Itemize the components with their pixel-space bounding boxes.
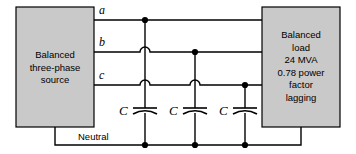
capacitor-2-label: C — [169, 103, 178, 119]
junction-dot-neutral-3 — [242, 142, 248, 148]
phase-b-line — [94, 47, 262, 52]
phase-c-label: c — [99, 68, 104, 83]
phase-a-label: a — [99, 3, 105, 18]
junction-dot-neutral-2 — [192, 142, 198, 148]
load-box-label: Balanced load 24 MVA 0.78 power factor l… — [262, 29, 340, 105]
junction-dot-phase-c — [242, 82, 248, 88]
phase-c-line — [94, 80, 262, 85]
junction-dot-neutral-1 — [142, 142, 148, 148]
source-box-label: Balanced three-phase source — [16, 49, 94, 87]
neutral-label: Neutral — [78, 131, 109, 142]
capacitor-3-label: C — [219, 103, 228, 119]
capacitor-1-label: C — [119, 103, 128, 119]
phase-b-label: b — [99, 35, 105, 50]
three-phase-circuit-diagram: Balanced three-phase source Balanced loa… — [0, 0, 356, 154]
junction-dot-phase-b — [192, 49, 198, 55]
junction-dot-phase-a — [142, 17, 148, 23]
